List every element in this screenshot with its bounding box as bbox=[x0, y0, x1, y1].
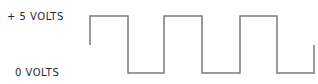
square-waveform bbox=[90, 16, 314, 73]
square-wave-plot bbox=[0, 0, 318, 84]
